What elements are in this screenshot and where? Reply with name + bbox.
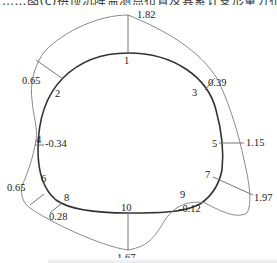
point-1-id: 1 (124, 55, 129, 66)
point-10-id: 10 (121, 202, 132, 213)
tunnel-diagram: 1 2 3 4 5 6 7 8 9 10 1.82 0.65 0.39 -0.3… (0, 0, 277, 263)
point-4-id: 4 (36, 134, 42, 145)
point-2-id: 2 (55, 88, 60, 99)
point-3-value: 0.39 (208, 77, 226, 88)
point-7-value: 1.97 (254, 192, 272, 203)
point-7-id: 7 (205, 169, 210, 180)
point-9-value: -0.12 (179, 203, 201, 214)
point-5-value: 1.15 (246, 137, 264, 148)
point-8-value: 0.28 (49, 211, 67, 222)
cut-footer (48, 258, 277, 263)
point-9-id: 9 (180, 189, 185, 200)
point-1-value: 1.82 (137, 9, 155, 20)
point-8-id: 8 (64, 192, 69, 203)
point-2-value: 0.65 (22, 75, 40, 86)
point-4-value: -0.34 (45, 138, 68, 149)
tunnel-section-outline (38, 53, 223, 213)
point-6-value: 0.65 (7, 182, 25, 193)
point-6-id: 6 (41, 173, 46, 184)
point-3-id: 3 (192, 87, 197, 98)
point-5-id: 5 (212, 138, 217, 149)
